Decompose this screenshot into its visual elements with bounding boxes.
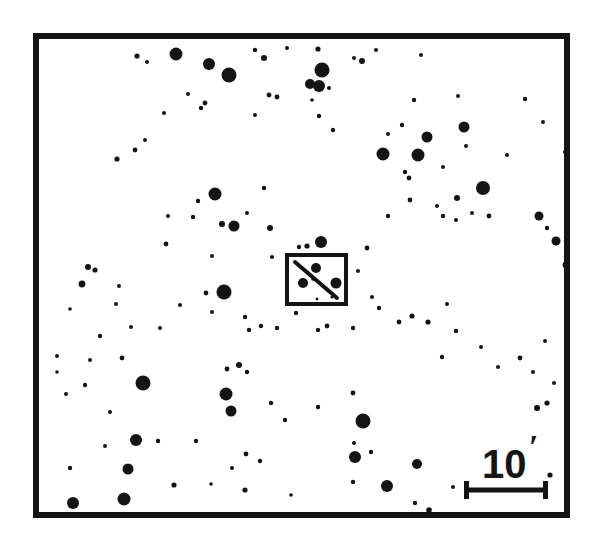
star-marker bbox=[456, 94, 460, 98]
star-marker bbox=[352, 441, 356, 445]
star-marker bbox=[55, 370, 59, 374]
star-marker bbox=[412, 149, 425, 162]
star-marker bbox=[317, 114, 321, 118]
target-box-star-marker bbox=[330, 295, 333, 298]
star-marker bbox=[245, 370, 249, 374]
star-marker bbox=[315, 236, 327, 248]
star-marker bbox=[79, 281, 86, 288]
star-marker bbox=[253, 113, 257, 117]
star-marker bbox=[203, 58, 215, 70]
star-marker bbox=[275, 95, 280, 100]
star-marker bbox=[409, 313, 414, 318]
star-marker bbox=[259, 324, 263, 328]
star-marker bbox=[120, 356, 125, 361]
star-marker bbox=[85, 264, 91, 270]
star-marker bbox=[269, 401, 273, 405]
star-marker bbox=[114, 302, 118, 306]
star-marker bbox=[229, 221, 240, 232]
star-marker bbox=[435, 204, 439, 208]
star-marker bbox=[170, 48, 183, 61]
star-marker bbox=[129, 325, 133, 329]
star-marker bbox=[476, 181, 490, 195]
star-marker bbox=[386, 132, 390, 136]
star-marker bbox=[253, 48, 257, 52]
star-marker bbox=[220, 388, 233, 401]
star-marker bbox=[464, 144, 468, 148]
star-marker bbox=[315, 63, 330, 78]
star-marker bbox=[377, 306, 381, 310]
star-marker bbox=[196, 199, 200, 203]
star-marker bbox=[327, 86, 331, 90]
star-marker bbox=[459, 122, 470, 133]
star-marker bbox=[68, 466, 72, 470]
star-marker bbox=[236, 362, 242, 368]
star-marker bbox=[441, 214, 445, 218]
star-marker bbox=[552, 237, 561, 246]
target-box-star-marker bbox=[331, 278, 342, 289]
star-marker bbox=[64, 392, 68, 396]
star-marker bbox=[225, 367, 230, 372]
star-marker bbox=[171, 482, 176, 487]
target-box-star-marker bbox=[311, 263, 321, 273]
star-marker bbox=[194, 439, 198, 443]
star-marker bbox=[400, 123, 404, 127]
star-marker bbox=[531, 370, 535, 374]
star-marker bbox=[470, 211, 474, 215]
star-marker bbox=[316, 328, 320, 332]
star-marker bbox=[222, 68, 237, 83]
star-marker bbox=[454, 329, 458, 333]
star-marker bbox=[204, 291, 209, 296]
star-marker bbox=[316, 405, 320, 409]
target-box-star-marker bbox=[311, 277, 315, 281]
star-marker bbox=[422, 132, 433, 143]
star-marker bbox=[92, 267, 97, 272]
star-marker bbox=[134, 53, 139, 58]
star-marker bbox=[351, 480, 355, 484]
star-marker bbox=[210, 254, 214, 258]
star-marker bbox=[217, 285, 232, 300]
star-marker bbox=[356, 414, 371, 429]
star-marker bbox=[258, 459, 262, 463]
star-marker bbox=[245, 211, 249, 215]
star-marker bbox=[419, 53, 423, 57]
star-marker bbox=[262, 186, 266, 190]
star-marker bbox=[191, 215, 195, 219]
star-marker bbox=[178, 303, 182, 307]
star-marker bbox=[547, 472, 552, 477]
star-marker bbox=[294, 311, 298, 315]
star-marker bbox=[209, 188, 222, 201]
star-marker bbox=[143, 138, 147, 142]
star-marker bbox=[397, 320, 402, 325]
target-box-star-marker bbox=[298, 278, 308, 288]
star-marker bbox=[407, 176, 412, 181]
star-marker bbox=[275, 326, 279, 330]
star-marker bbox=[454, 195, 460, 201]
scale-bar-unit-symbol: ′ bbox=[529, 428, 539, 465]
star-marker bbox=[83, 383, 87, 387]
star-marker bbox=[244, 452, 249, 457]
star-marker bbox=[230, 466, 234, 470]
star-marker bbox=[156, 439, 160, 443]
star-marker bbox=[359, 58, 365, 64]
star-marker bbox=[209, 482, 213, 486]
star-marker bbox=[454, 218, 458, 222]
star-marker bbox=[381, 480, 393, 492]
star-marker bbox=[88, 358, 92, 362]
star-marker bbox=[297, 245, 301, 249]
star-marker bbox=[136, 376, 151, 391]
finder-chart-canvas: 10 ′ bbox=[0, 0, 592, 557]
star-marker bbox=[267, 93, 272, 98]
star-marker bbox=[426, 507, 432, 513]
star-marker bbox=[374, 48, 378, 52]
star-marker bbox=[541, 120, 545, 124]
star-marker bbox=[408, 198, 413, 203]
star-marker bbox=[412, 459, 422, 469]
star-marker bbox=[451, 485, 455, 489]
star-marker bbox=[289, 493, 293, 497]
star-marker bbox=[130, 434, 142, 446]
star-marker bbox=[203, 101, 208, 106]
star-marker bbox=[315, 46, 320, 51]
star-marker bbox=[219, 221, 225, 227]
star-marker bbox=[158, 326, 162, 330]
star-marker bbox=[544, 400, 549, 405]
